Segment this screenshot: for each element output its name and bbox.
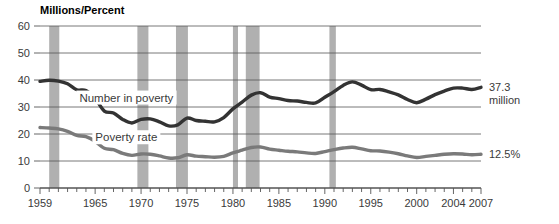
x-tick-label-1959: 1959 [28, 197, 52, 209]
x-tick-label-1995: 1995 [359, 197, 383, 209]
poverty-chart-figure: Millions/Percent 0102030405060 195919651… [0, 0, 559, 224]
x-tick-label-1990: 1990 [313, 197, 337, 209]
rate-end-value: 12.5% [489, 148, 520, 160]
y-tick-label-20: 20 [18, 128, 30, 140]
chart-canvas: Millions/Percent 0102030405060 195919651… [0, 0, 559, 224]
y-tick-label-0: 0 [24, 182, 30, 194]
number-end-value: 37.3 [489, 81, 510, 93]
x-tick-label-1975: 1975 [175, 197, 199, 209]
chart-title: Millions/Percent [40, 4, 125, 16]
x-tick-label-2007: 2007 [469, 197, 493, 209]
x-tick-label-2000: 2000 [404, 197, 428, 209]
x-tick-label-1980: 1980 [221, 197, 245, 209]
x-tick-label-1985: 1985 [267, 197, 291, 209]
y-tick-label-60: 60 [18, 20, 30, 32]
y-tick-label-40: 40 [18, 74, 30, 86]
x-tick-label-2004: 2004 [441, 197, 465, 209]
x-tick-label-1965: 1965 [83, 197, 107, 209]
y-tick-label-10: 10 [18, 155, 30, 167]
poverty-rate-label: Poverty rate [95, 131, 157, 143]
chart-background [0, 0, 559, 224]
y-tick-label-50: 50 [18, 47, 30, 59]
number-end-units: million [489, 94, 520, 106]
x-tick-label-1970: 1970 [129, 197, 153, 209]
y-tick-label-30: 30 [18, 101, 30, 113]
number-in-poverty-label: Number in poverty [79, 92, 173, 104]
